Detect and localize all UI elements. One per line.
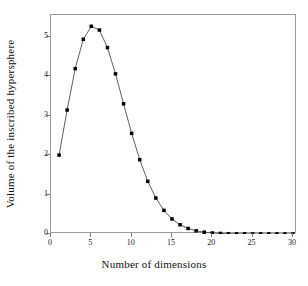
data-point (130, 132, 134, 136)
x-tick-mark (171, 233, 172, 237)
x-axis-label: Number of dimensions (0, 258, 308, 270)
data-point (146, 180, 150, 184)
chart-figure: 051015202530 012345 Number of dimensions… (0, 0, 308, 286)
x-tick-label: 15 (167, 239, 175, 247)
data-point (283, 232, 287, 234)
data-point (194, 229, 198, 233)
x-tick-label: 25 (248, 239, 256, 247)
y-tick-label: 3 (44, 111, 48, 119)
x-tick-mark (90, 233, 91, 237)
data-point (235, 232, 239, 234)
x-tick-label: 0 (48, 239, 52, 247)
data-point (203, 230, 207, 234)
data-point (82, 38, 86, 42)
data-point (267, 232, 271, 234)
data-point (57, 153, 61, 157)
data-point (138, 158, 142, 162)
data-point (275, 232, 279, 234)
data-point (186, 227, 190, 231)
y-tick-label: 5 (44, 32, 48, 40)
x-tick-mark (252, 233, 253, 237)
data-point (98, 28, 102, 32)
data-point (259, 232, 263, 234)
data-point (227, 232, 231, 234)
data-point (65, 108, 69, 112)
x-tick-mark (211, 233, 212, 237)
data-point (73, 67, 77, 71)
x-tick-mark (131, 233, 132, 237)
data-point (170, 217, 174, 221)
y-tick-label: 4 (44, 71, 48, 79)
x-tick-mark (50, 233, 51, 237)
data-point (90, 25, 94, 29)
data-point (162, 209, 166, 213)
y-tick-label: 0 (44, 229, 48, 237)
y-tick-label: 1 (44, 190, 48, 198)
data-point (178, 223, 182, 227)
x-tick-label: 10 (127, 239, 135, 247)
plot-svg (51, 15, 297, 234)
x-tick-label: 20 (207, 239, 215, 247)
data-line (59, 26, 293, 234)
y-tick-label: 2 (44, 150, 48, 158)
y-axis-label-container: Volume of the inscribed hypersphere (0, 0, 20, 247)
data-point (106, 46, 110, 50)
data-point (219, 232, 223, 234)
y-axis-label: Volume of the inscribed hypersphere (4, 39, 16, 208)
data-point (154, 196, 158, 200)
data-point-group (57, 25, 294, 234)
data-point (122, 102, 126, 106)
x-tick-label: 30 (288, 239, 296, 247)
data-point (243, 232, 247, 234)
x-tick-label: 5 (88, 239, 92, 247)
data-point (114, 72, 118, 76)
x-tick-mark (292, 233, 293, 237)
plot-panel (50, 14, 296, 233)
